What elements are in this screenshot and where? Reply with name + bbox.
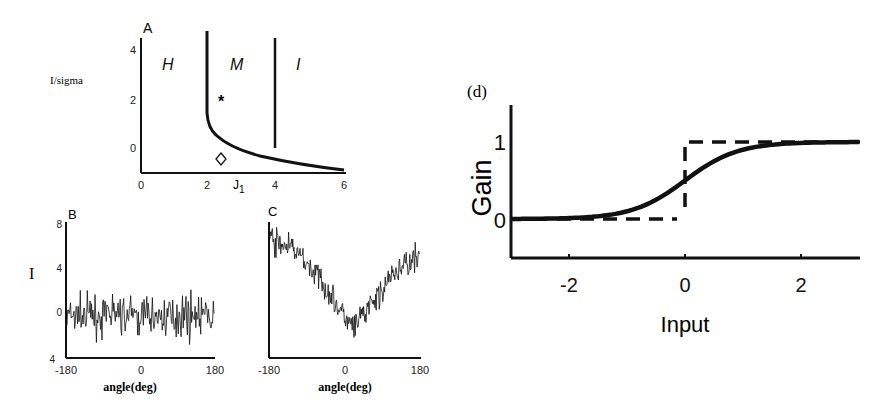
panel-d-letter: (d) <box>467 82 487 101</box>
panel-b-ytick-4: 4 <box>56 263 62 274</box>
panel-b-xtick-neg180: -180 <box>55 364 77 376</box>
panel-b-noise-trace <box>67 290 214 345</box>
panel-a-xtick-0: 0 <box>138 179 144 191</box>
panel-b-xtick-180: 180 <box>206 364 224 376</box>
panel-c-xlabel: angle(deg) <box>318 380 371 394</box>
region-m-label: M <box>230 56 244 73</box>
star-marker-icon: * <box>218 93 225 110</box>
diamond-marker-icon <box>216 153 226 165</box>
figure-canvas: A 4 2 0 I/sigma 0 2 4 6 J1 H M I * <box>0 0 884 414</box>
panel-c: C -180 0 180 angle(deg) <box>258 204 429 394</box>
panel-a: A 4 2 0 I/sigma 0 2 4 6 J1 H M I * <box>50 20 347 195</box>
panel-a-ytick-4: 4 <box>130 44 136 56</box>
panel-d-xlabel: Input <box>661 312 710 337</box>
panel-c-letter: C <box>268 204 277 219</box>
region-h-label: H <box>162 56 174 73</box>
panel-d-xtick-0: 0 <box>679 274 690 296</box>
panel-d-xtick-neg2: -2 <box>560 274 578 296</box>
panel-d-ylabel: Gain <box>467 159 497 216</box>
panel-b-xtick-0: 0 <box>138 364 144 376</box>
panel-b: B 8 4 0 4 I -180 0 180 angle(deg) <box>29 207 224 394</box>
panel-c-xtick-180: 180 <box>411 364 429 376</box>
panel-b-letter: B <box>68 207 77 222</box>
panel-c-tuning-trace <box>270 227 419 337</box>
panel-a-xtick-4: 4 <box>272 179 278 191</box>
region-i-label: I <box>296 56 301 73</box>
panel-b-xlabel: angle(deg) <box>103 380 156 394</box>
panel-b-ytick-0: 0 <box>56 307 62 318</box>
step-function-dashed-upper <box>685 142 860 207</box>
panel-a-xlabel: J1 <box>233 178 245 195</box>
panel-a-xtick-6: 6 <box>341 179 347 191</box>
panel-a-ytick-2: 2 <box>130 94 136 106</box>
panel-c-xtick-0: 0 <box>342 364 348 376</box>
panel-a-ylabel: I/sigma <box>50 74 83 86</box>
panel-b-ylabel: I <box>29 265 34 282</box>
panel-a-letter: A <box>143 20 153 36</box>
panel-b-ytick-8: 8 <box>56 219 62 230</box>
panel-d-ytick-1: 1 <box>494 130 506 155</box>
panel-d: (d) -2 0 2 1 0 Gain Input <box>467 82 860 337</box>
panel-c-xtick-neg180: -180 <box>258 364 280 376</box>
panel-a-ytick-0: 0 <box>130 142 136 154</box>
panel-d-xtick-2: 2 <box>795 274 806 296</box>
panel-a-xtick-2: 2 <box>204 179 210 191</box>
